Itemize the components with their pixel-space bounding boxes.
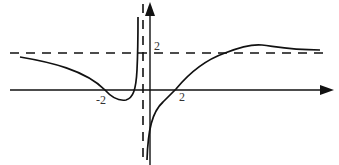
curve-right-branch [147, 45, 320, 160]
function-graph: -2 2 2 [0, 0, 339, 165]
x-label-two: 2 [179, 90, 185, 104]
x-axis-arrow-icon [320, 85, 334, 95]
x-label-neg-two: -2 [96, 93, 106, 107]
y-label-two: 2 [154, 39, 160, 53]
y-axis-arrow-icon [145, 2, 155, 16]
curve-left-branch [20, 17, 138, 100]
